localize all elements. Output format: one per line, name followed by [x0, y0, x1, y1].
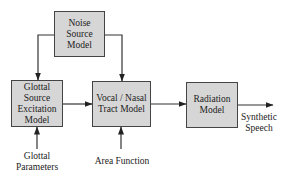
- synthetic-speech-label: Synthetic Speech: [238, 112, 280, 134]
- glottal-source-excitation-model-label: Glottal Source Excitation Model: [17, 82, 56, 126]
- area-function-label: Area Function: [90, 156, 154, 167]
- glottal-parameters-label: Glottal Parameters: [10, 151, 64, 173]
- noise-source-model-label: Noise Source Model: [66, 18, 92, 51]
- radiation-model-block: Radiation Model: [186, 82, 238, 128]
- noise-source-model-block: Noise Source Model: [54, 11, 105, 57]
- vocal-nasal-tract-model-block: Vocal / Nasal Tract Model: [92, 81, 151, 127]
- glottal-source-excitation-model-block: Glottal Source Excitation Model: [11, 80, 63, 127]
- vocal-nasal-tract-model-label: Vocal / Nasal Tract Model: [96, 93, 146, 115]
- edge-noise-to-vocal: [105, 35, 122, 81]
- edge-noise-to-glottal: [38, 35, 54, 80]
- radiation-model-label: Radiation Model: [194, 94, 231, 116]
